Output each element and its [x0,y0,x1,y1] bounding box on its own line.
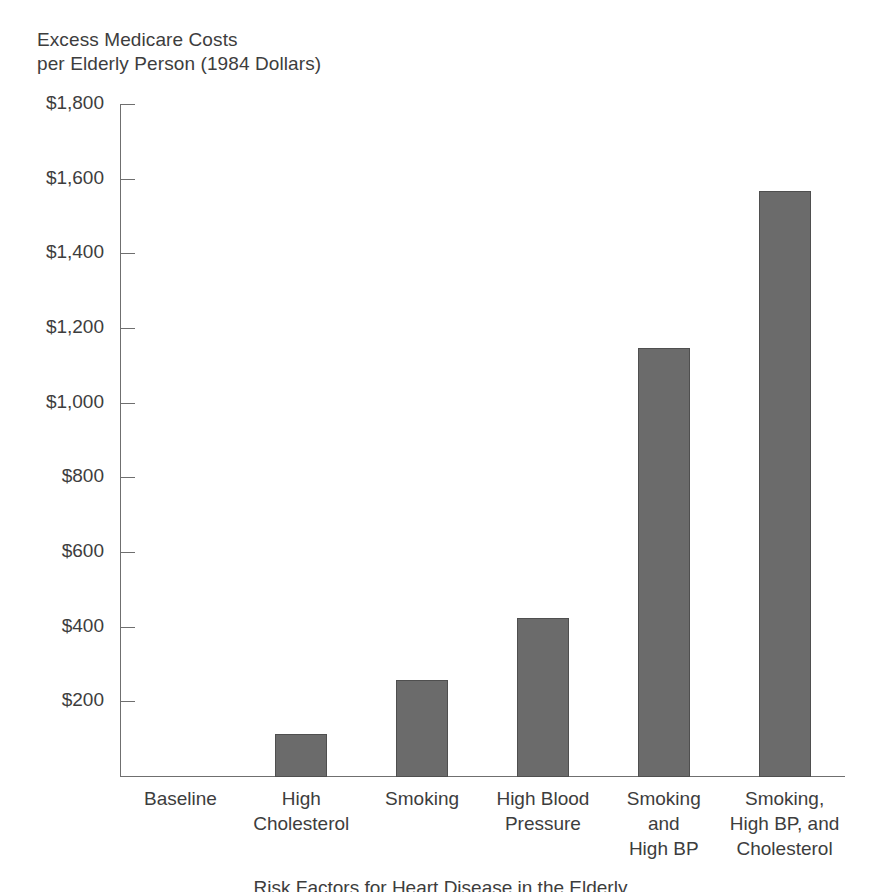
y-tick-label: $200 [0,688,104,712]
y-tick: $600 [0,552,120,553]
bar-slot [120,100,241,777]
y-tick-label: $1,400 [0,240,104,264]
y-tick-label: $400 [0,614,104,638]
y-tick-label: $600 [0,539,104,563]
y-tick: $1,800 [0,104,120,105]
bar-chart: Excess Medicare Costs per Elderly Person… [0,0,881,892]
bar-slot [483,100,604,777]
y-tick: $400 [0,627,120,628]
bar-slot [603,100,724,777]
bar [517,618,569,777]
x-axis-title: Risk Factors for Heart Disease in the El… [0,876,881,892]
bars-layer [120,100,845,777]
bar [275,734,327,777]
y-tick-label: $1,000 [0,390,104,414]
y-tick: $1,200 [0,328,120,329]
bar [759,191,811,777]
bar-slot [241,100,362,777]
y-tick: $200 [0,701,120,702]
y-tick-label: $1,600 [0,166,104,190]
y-tick-label: $1,800 [0,91,104,115]
y-tick: $1,600 [0,179,120,180]
x-category-label: High Blood Pressure [478,786,608,836]
bar [396,680,448,777]
x-category-label: Smoking and High BP [599,786,729,861]
x-category-label: Smoking [357,786,487,811]
y-tick: $1,000 [0,403,120,404]
y-axis-title: Excess Medicare Costs per Elderly Person… [37,28,321,76]
bar-slot [362,100,483,777]
x-category-label: Smoking, High BP, and Cholesterol [720,786,850,861]
bar [638,348,690,777]
y-tick-label: $1,200 [0,315,104,339]
x-axis-category-labels: BaselineHigh CholesterolSmokingHigh Bloo… [120,786,845,876]
y-tick: $800 [0,477,120,478]
y-tick-label: $800 [0,464,104,488]
x-category-label: High Cholesterol [236,786,366,836]
y-tick: $1,400 [0,253,120,254]
x-category-label: Baseline [115,786,245,811]
bar-slot [724,100,845,777]
